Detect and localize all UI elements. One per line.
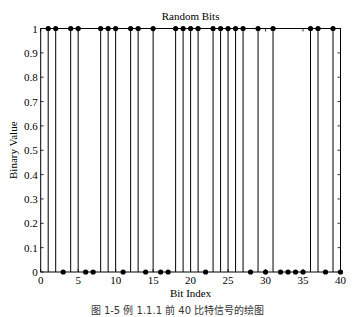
y-tick-label: 0.9	[24, 47, 38, 59]
stem-marker	[308, 26, 313, 31]
y-tick-label: 0.8	[24, 71, 38, 83]
stem-marker	[98, 26, 103, 31]
y-tick-label: 0.4	[24, 169, 38, 181]
x-tick-label: 5	[75, 274, 81, 286]
stem-marker	[255, 26, 260, 31]
stem-marker	[278, 269, 283, 274]
stem-marker	[128, 26, 133, 31]
y-tick-label: 0.7	[24, 96, 38, 108]
stem-marker	[248, 269, 253, 274]
x-axis-label: Bit Index	[170, 287, 212, 299]
stem-marker	[315, 26, 320, 31]
x-tick-label: 40	[335, 274, 347, 286]
stem-marker	[270, 26, 275, 31]
stem-marker	[203, 269, 208, 274]
x-tick-label: 0	[38, 274, 44, 286]
stem-marker	[330, 26, 335, 31]
stem-marker	[210, 26, 215, 31]
stem-marker	[195, 26, 200, 31]
stem-marker	[166, 269, 171, 274]
y-tick-label: 0.6	[24, 120, 38, 132]
stem-marker	[218, 26, 223, 31]
stem-marker	[61, 269, 66, 274]
y-tick-label: 1	[32, 23, 38, 35]
stem-marker	[106, 26, 111, 31]
x-tick-label: 20	[185, 274, 197, 286]
y-axis-label: Binary Value	[7, 121, 19, 179]
stem-marker	[233, 26, 238, 31]
stem-marker	[83, 269, 88, 274]
stem-marker	[136, 26, 141, 31]
x-tick-label: 10	[110, 274, 122, 286]
x-tick-label: 30	[260, 274, 272, 286]
y-tick-label: 0	[32, 266, 38, 278]
stem-marker	[46, 26, 51, 31]
x-tick-label: 35	[298, 274, 310, 286]
y-tick-label: 0.3	[24, 193, 38, 205]
stem-marker	[323, 269, 328, 274]
stem-marker	[181, 26, 186, 31]
stem-marker	[158, 269, 163, 274]
chart-title: Random Bits	[162, 10, 220, 22]
stem-marker	[285, 269, 290, 274]
stem-marker	[68, 26, 73, 31]
stem-marker	[91, 269, 96, 274]
x-tick-label: 15	[148, 274, 160, 286]
stem-marker	[121, 269, 126, 274]
stem-marker	[173, 26, 178, 31]
y-tick-label: 0.1	[24, 242, 38, 254]
stem-marker	[240, 26, 245, 31]
y-tick-label: 0.2	[24, 217, 38, 229]
stem-marker	[53, 26, 58, 31]
figure-caption: 图 1-5 例 1.1.1 前 40 比特信号的绘图	[0, 302, 355, 317]
x-tick-label: 25	[223, 274, 235, 286]
y-tick-label: 0.5	[24, 144, 38, 156]
